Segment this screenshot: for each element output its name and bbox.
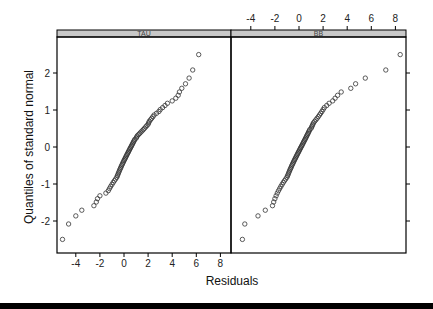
data-point [183, 82, 187, 86]
y-axis: -2-1012 [41, 68, 410, 227]
strip-label: BB [314, 30, 324, 37]
data-point [240, 237, 244, 241]
data-point [174, 96, 178, 100]
x-axis-bottom: -4-202468 [71, 253, 223, 269]
data-point [256, 214, 260, 218]
x-tick-label: 2 [145, 258, 151, 269]
x-tick-label: -2 [95, 258, 104, 269]
data-point [187, 76, 191, 80]
x-tick-label: 0 [121, 258, 127, 269]
x-tick-label: -2 [270, 13, 279, 24]
panel-bb: BB [231, 30, 406, 253]
data-point [339, 90, 343, 94]
data-point [60, 237, 64, 241]
data-point [363, 76, 367, 80]
data-point [331, 99, 335, 103]
y-tick-label: -2 [41, 216, 50, 227]
data-point [98, 194, 102, 198]
x-tick-label: -4 [246, 13, 255, 24]
data-point [335, 93, 339, 97]
panel-tau: TAU [57, 30, 231, 253]
y-tick-label: -1 [41, 179, 50, 190]
bottom-divider-bar [0, 303, 433, 309]
data-points [240, 52, 402, 241]
data-point [384, 68, 388, 72]
qq-plot-chart: TAUBB -4-202468-4-202468-2-1012 Quantile… [0, 0, 433, 309]
data-points [60, 52, 201, 241]
x-tick-label: 8 [218, 258, 224, 269]
data-point [353, 82, 357, 86]
y-tick-label: 2 [44, 68, 50, 79]
panel-frame [57, 37, 231, 253]
x-axis-title: Residuals [206, 274, 259, 288]
x-tick-label: 2 [320, 13, 326, 24]
data-point [180, 86, 184, 90]
y-tick-label: 0 [44, 142, 50, 153]
x-tick-label: 4 [169, 258, 175, 269]
data-point [74, 214, 78, 218]
data-point [80, 208, 84, 212]
x-tick-label: 6 [369, 13, 375, 24]
data-point [66, 222, 70, 226]
data-point [349, 86, 353, 90]
y-axis-title: Quantiles of standard normal [22, 70, 36, 224]
axes-group: -4-202468-4-202468-2-1012 [41, 13, 410, 269]
panels-group: TAUBB [57, 30, 406, 253]
data-point [243, 222, 247, 226]
x-axis-top: -4-202468 [246, 13, 398, 30]
data-point [333, 96, 337, 100]
x-tick-label: -4 [71, 258, 80, 269]
x-tick-label: 4 [344, 13, 350, 24]
data-point [197, 52, 201, 56]
strip-label: TAU [137, 30, 150, 37]
data-point [263, 208, 267, 212]
x-tick-label: 8 [393, 13, 399, 24]
x-tick-label: 0 [296, 13, 302, 24]
y-tick-label: 1 [44, 105, 50, 116]
panel-frame [231, 37, 406, 253]
data-point [191, 68, 195, 72]
x-tick-label: 6 [194, 258, 200, 269]
data-point [398, 52, 402, 56]
